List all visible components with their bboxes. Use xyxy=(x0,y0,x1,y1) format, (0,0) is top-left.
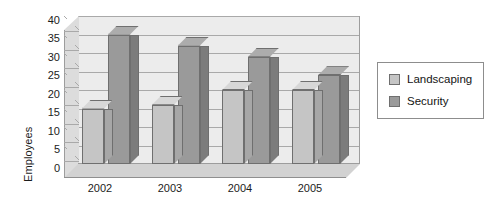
bar-side xyxy=(244,90,253,164)
gridline-connector xyxy=(64,72,79,88)
gridline xyxy=(79,16,359,17)
bar-side xyxy=(270,57,279,164)
bar-face xyxy=(82,109,104,165)
plot-floor xyxy=(64,164,360,178)
gridline-connector xyxy=(64,90,79,106)
legend-swatch-icon xyxy=(389,96,400,107)
y-axis-tick: 10 xyxy=(34,126,60,137)
bar-face xyxy=(292,90,314,164)
bar-2002-landscaping xyxy=(82,109,104,165)
y-axis-tick: 40 xyxy=(34,15,60,26)
legend-swatch-icon xyxy=(389,74,400,85)
bar-side xyxy=(130,35,139,165)
x-axis-tick: 2003 xyxy=(146,182,194,194)
bar-side xyxy=(340,75,349,164)
gridline-connector xyxy=(64,16,79,32)
plot-area xyxy=(64,16,360,178)
bar-side xyxy=(104,109,113,165)
bar-side xyxy=(174,105,183,164)
gridline-connector xyxy=(64,127,79,143)
chart-legend: Landscaping Security xyxy=(377,62,484,119)
bar-side xyxy=(314,90,323,164)
plot-floor-front-edge xyxy=(64,177,346,178)
bar-side xyxy=(200,46,209,164)
bar-2005-landscaping xyxy=(292,90,314,164)
legend-item-landscaping: Landscaping xyxy=(389,73,472,85)
x-axis-tick: 2002 xyxy=(76,182,124,194)
legend-label: Landscaping xyxy=(407,73,472,85)
gridline-connector xyxy=(64,35,79,51)
gridline-connector xyxy=(64,146,79,162)
x-axis-tick: 2004 xyxy=(216,182,264,194)
bar-2003-landscaping xyxy=(152,105,174,164)
y-axis-tick: 15 xyxy=(34,107,60,118)
y-axis-tick: 0 xyxy=(34,163,60,174)
x-axis-tick: 2005 xyxy=(286,182,334,194)
y-axis-tick-labels: 40 35 30 25 20 15 10 5 0 xyxy=(32,0,60,209)
bar-2004-landscaping xyxy=(222,90,244,164)
gridline-connector xyxy=(64,53,79,69)
y-axis-tick: 5 xyxy=(34,144,60,155)
legend-item-security: Security xyxy=(389,95,449,107)
gridline-connector xyxy=(64,109,79,125)
bar-face xyxy=(222,90,244,164)
y-axis-tick: 30 xyxy=(34,52,60,63)
y-axis-tick: 25 xyxy=(34,70,60,81)
y-axis-tick: 35 xyxy=(34,33,60,44)
y-axis-tick: 20 xyxy=(34,89,60,100)
bar-chart: Employees 40 35 30 25 20 15 10 5 0 xyxy=(0,0,497,209)
bar-face xyxy=(152,105,174,164)
legend-label: Security xyxy=(407,95,449,107)
